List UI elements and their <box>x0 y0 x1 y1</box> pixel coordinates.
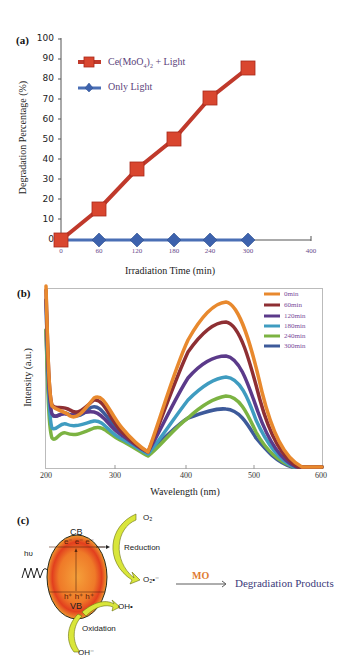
superoxide-label: O₂•⁻ <box>143 575 159 584</box>
hv-label: hυ <box>24 549 33 558</box>
vb-label: VB <box>70 601 82 611</box>
oxidation-label: Oxidation <box>82 624 116 633</box>
mechanism-diagram <box>0 0 362 668</box>
o2-label: O₂ <box>143 513 152 522</box>
hydroxide-label: OH⁻ <box>78 648 94 657</box>
oh-radical-label: OH• <box>118 602 133 611</box>
cb-label: CB <box>70 527 83 537</box>
holes-label: h⁺ h⁺ h⁺ <box>64 592 94 601</box>
oxidation-arrow-icon <box>68 614 82 652</box>
mo-label: MO <box>192 570 209 581</box>
degradation-products-label: Degradiation Products <box>235 577 334 589</box>
reduction-label: Reduction <box>124 543 160 552</box>
electrons-label: e⁻ e⁻ e⁻ <box>64 537 94 546</box>
